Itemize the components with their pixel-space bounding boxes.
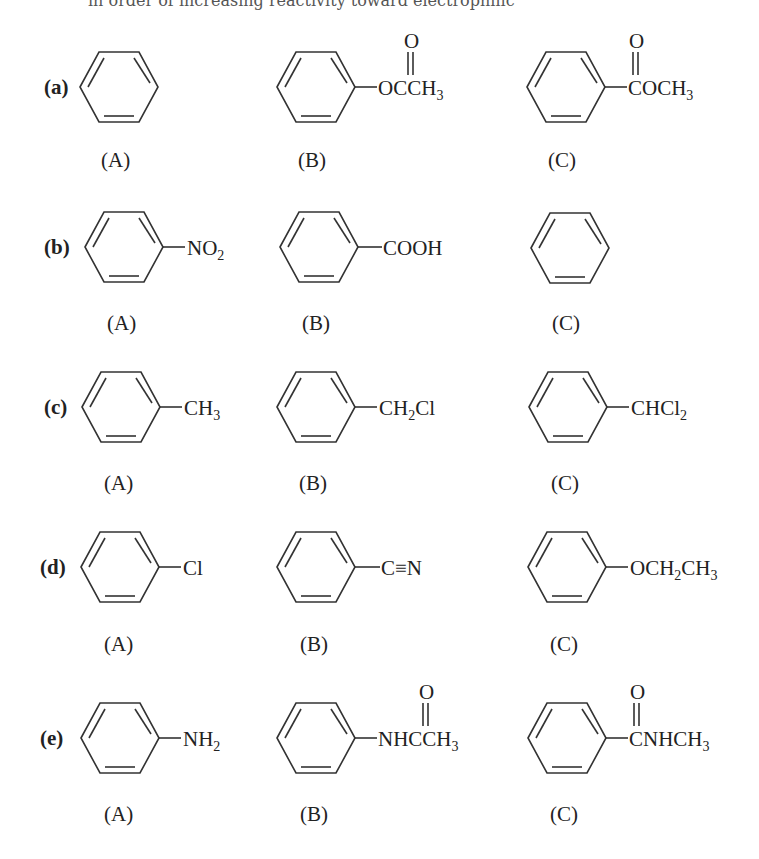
compound-d-C: OCH2CH3 (C) <box>528 532 718 656</box>
substituent-label: NHCCH3 <box>378 727 459 754</box>
compound-caption: (B) <box>300 802 328 826</box>
benzene-ring-icon <box>529 372 607 442</box>
compound-d-B: C≡N (B) <box>277 532 422 656</box>
compound-d-A: Cl (A) <box>81 532 203 656</box>
benzene-ring-icon <box>81 703 159 773</box>
compound-caption: (C) <box>552 311 580 335</box>
compound-caption: (B) <box>299 471 327 495</box>
substituent-label: CH2Cl <box>379 396 435 423</box>
benzene-ring-icon <box>85 212 163 282</box>
benzene-ring-icon <box>531 213 609 283</box>
benzene-ring-icon <box>277 372 355 442</box>
compound-e-C: CNHCH3 O (C) <box>528 680 710 826</box>
substituent-label: NO2 <box>187 236 224 263</box>
compound-caption: (A) <box>104 471 133 495</box>
substituent-label: COOH <box>383 236 443 260</box>
benzene-ring-icon <box>528 532 606 602</box>
compound-b-A: NO2 (A) <box>85 212 224 335</box>
compound-caption: (C) <box>550 802 578 826</box>
substituent-label: CHCl2 <box>631 396 687 423</box>
substituent-label: COCH3 <box>628 76 693 103</box>
carbonyl-oxygen: O <box>419 680 434 704</box>
compound-caption: (B) <box>298 148 326 172</box>
compound-a-A: (A) <box>80 52 158 172</box>
compound-a-B: OCCH3 O (B) <box>277 29 443 172</box>
compound-c-B: CH2Cl (B) <box>277 372 435 495</box>
compound-a-C: COCH3 O (C) <box>527 29 693 172</box>
compound-caption: (B) <box>300 632 328 656</box>
substituent-label: OCH2CH3 <box>630 556 718 583</box>
substituent-label: OCCH3 <box>378 76 443 103</box>
benzene-ring-icon <box>81 532 159 602</box>
compound-caption: (C) <box>548 148 576 172</box>
row-label: (a) <box>44 75 69 99</box>
compound-caption: (C) <box>551 471 579 495</box>
carbonyl-oxygen: O <box>404 29 419 53</box>
row-c: (c) CH3 (A) CH2Cl (B) CHCl2 (C) <box>44 372 687 495</box>
compound-caption: (A) <box>104 802 133 826</box>
carbonyl-oxygen: O <box>630 680 645 704</box>
substituent-label: CH3 <box>184 396 220 423</box>
row-label: (d) <box>40 555 66 579</box>
substituent-label: Cl <box>183 556 203 580</box>
row-d: (d) Cl (A) C≡N (B) OCH2CH3 (C) <box>40 532 718 656</box>
row-label: (b) <box>44 235 70 259</box>
compound-caption: (B) <box>302 311 330 335</box>
benzene-ring-icon <box>280 212 358 282</box>
benzene-ring-icon <box>277 532 355 602</box>
substituent-label: NH2 <box>183 727 220 754</box>
benzene-ring-icon <box>82 372 160 442</box>
row-b: (b) NO2 (A) COOH (B) (C) <box>44 212 609 335</box>
compound-b-B: COOH (B) <box>280 212 443 335</box>
compound-caption: (C) <box>550 632 578 656</box>
compound-caption: (A) <box>101 148 130 172</box>
structure-diagram: (a) (A) OCCH3 O (B) COCH3 O (C) (b) <box>0 0 759 859</box>
carbonyl-oxygen: O <box>629 29 644 53</box>
compound-caption: (A) <box>107 311 136 335</box>
benzene-ring-icon <box>527 52 605 122</box>
benzene-ring-icon <box>528 703 606 773</box>
substituent-label: CNHCH3 <box>629 727 710 754</box>
row-label: (c) <box>44 395 67 419</box>
compound-e-A: NH2 (A) <box>81 703 220 826</box>
row-e: (e) NH2 (A) NHCCH3 O (B) CNHCH3 O (C) <box>40 680 710 826</box>
compound-c-C: CHCl2 (C) <box>529 372 687 495</box>
compound-e-B: NHCCH3 O (B) <box>277 680 459 826</box>
row-label: (e) <box>40 726 63 750</box>
compound-c-A: CH3 (A) <box>82 372 220 495</box>
substituent-label: C≡N <box>381 556 422 580</box>
benzene-ring-icon <box>277 703 355 773</box>
compound-b-C: (C) <box>531 213 609 335</box>
compound-caption: (A) <box>104 632 133 656</box>
benzene-ring-icon <box>277 52 355 122</box>
row-a: (a) (A) OCCH3 O (B) COCH3 O (C) <box>44 29 693 172</box>
benzene-ring-icon <box>80 52 158 122</box>
